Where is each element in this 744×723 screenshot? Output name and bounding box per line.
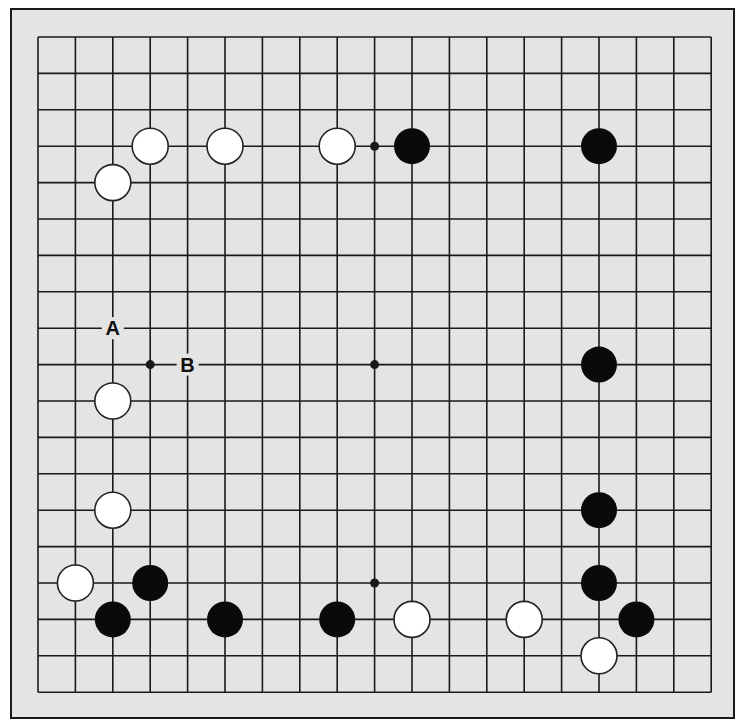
star-point — [370, 142, 379, 151]
star-point — [370, 360, 379, 369]
white-stone[interactable] — [95, 165, 131, 201]
board-label-b: B — [180, 354, 194, 376]
white-stone[interactable] — [57, 565, 93, 601]
white-stone[interactable] — [319, 128, 355, 164]
black-stone[interactable] — [394, 128, 430, 164]
black-stone[interactable] — [581, 347, 617, 383]
black-stone[interactable] — [581, 128, 617, 164]
star-point — [146, 360, 155, 369]
black-stone[interactable] — [319, 601, 355, 637]
board-grid: AB — [0, 0, 744, 723]
white-stone[interactable] — [95, 492, 131, 528]
black-stone[interactable] — [618, 601, 654, 637]
white-stone[interactable] — [506, 601, 542, 637]
white-stone[interactable] — [207, 128, 243, 164]
board-label-a: A — [106, 317, 120, 339]
white-stone[interactable] — [581, 638, 617, 674]
black-stone[interactable] — [132, 565, 168, 601]
white-stone[interactable] — [95, 383, 131, 419]
black-stone[interactable] — [581, 492, 617, 528]
star-point — [370, 579, 379, 588]
black-stone[interactable] — [95, 601, 131, 637]
white-stone[interactable] — [394, 601, 430, 637]
black-stone[interactable] — [581, 565, 617, 601]
white-stone[interactable] — [132, 128, 168, 164]
black-stone[interactable] — [207, 601, 243, 637]
